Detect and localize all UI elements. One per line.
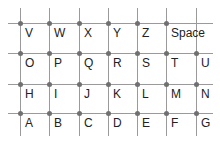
- grid-node: [77, 51, 82, 56]
- key-d[interactable]: D: [113, 116, 122, 130]
- grid-node: [18, 111, 23, 116]
- key-o[interactable]: O: [25, 56, 34, 70]
- grid-vline: [79, 8, 80, 136]
- key-u[interactable]: U: [201, 56, 210, 70]
- key-c[interactable]: C: [84, 116, 93, 130]
- grid-node: [47, 51, 52, 56]
- grid-node: [194, 51, 199, 56]
- key-z[interactable]: Z: [142, 26, 149, 40]
- grid-vline: [166, 8, 167, 136]
- grid-node: [164, 51, 169, 56]
- grid-vline: [108, 8, 109, 136]
- grid-node: [106, 21, 111, 26]
- grid-node: [106, 82, 111, 87]
- key-space[interactable]: Space: [171, 26, 205, 40]
- grid-node: [18, 21, 23, 26]
- key-h[interactable]: H: [25, 87, 34, 101]
- key-g[interactable]: G: [201, 116, 210, 130]
- grid-node: [18, 82, 23, 87]
- key-l[interactable]: L: [142, 87, 149, 101]
- key-f[interactable]: F: [171, 116, 178, 130]
- grid-node: [47, 82, 52, 87]
- grid-node: [106, 111, 111, 116]
- grid-vline: [137, 8, 138, 136]
- grid-node: [47, 21, 52, 26]
- key-w[interactable]: W: [54, 26, 65, 40]
- key-v[interactable]: V: [25, 26, 33, 40]
- key-a[interactable]: A: [25, 116, 33, 130]
- key-j[interactable]: J: [84, 87, 90, 101]
- key-p[interactable]: P: [54, 56, 62, 70]
- key-i[interactable]: I: [54, 87, 57, 101]
- grid-node: [106, 51, 111, 56]
- grid-node: [194, 111, 199, 116]
- key-q[interactable]: Q: [84, 56, 93, 70]
- key-e[interactable]: E: [142, 116, 150, 130]
- key-m[interactable]: M: [171, 87, 181, 101]
- grid-node: [135, 51, 140, 56]
- key-n[interactable]: N: [201, 87, 210, 101]
- grid-node: [18, 51, 23, 56]
- grid-node: [135, 21, 140, 26]
- grid-node: [164, 111, 169, 116]
- grid-node: [135, 111, 140, 116]
- key-y[interactable]: Y: [113, 26, 121, 40]
- grid-node: [135, 82, 140, 87]
- key-t[interactable]: T: [171, 56, 178, 70]
- grid-node: [77, 82, 82, 87]
- grid-node: [77, 111, 82, 116]
- key-b[interactable]: B: [54, 116, 62, 130]
- grid-node: [47, 111, 52, 116]
- grid-node: [164, 21, 169, 26]
- grid-node: [194, 82, 199, 87]
- key-k[interactable]: K: [113, 87, 121, 101]
- key-x[interactable]: X: [84, 26, 92, 40]
- grid-vline: [49, 8, 50, 136]
- grid-node: [77, 21, 82, 26]
- grid-vline: [20, 8, 21, 136]
- key-r[interactable]: R: [113, 56, 122, 70]
- key-s[interactable]: S: [142, 56, 150, 70]
- grid-node: [164, 82, 169, 87]
